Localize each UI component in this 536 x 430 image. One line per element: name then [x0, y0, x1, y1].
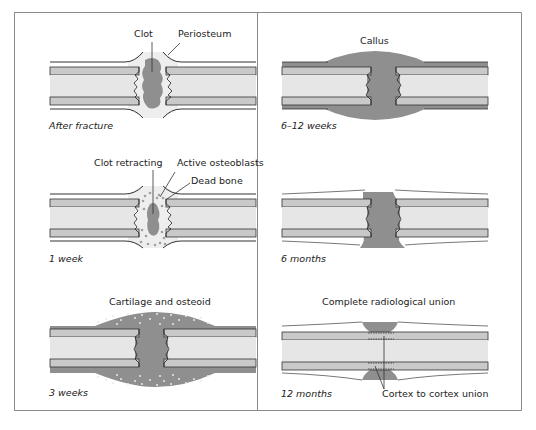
panel-12-months: Complete radiological union Cortex to co…: [281, 296, 488, 399]
caption-1-week: 1 week: [49, 253, 84, 264]
caption-6-12-weeks: 6–12 weeks: [281, 120, 337, 131]
label-callus: Callus: [360, 35, 389, 46]
label-cartilage-and-osteoid: Cartilage and osteoid: [109, 296, 211, 307]
caption-6-months: 6 months: [281, 253, 326, 264]
label-clot-retracting: Clot retracting: [94, 157, 162, 168]
label-cortex-to-cortex-union: Cortex to cortex union: [382, 388, 488, 399]
label-periosteum: Periosteum: [178, 28, 231, 39]
panel-3-weeks: Cartilage and osteoid 3 weeks: [49, 296, 256, 398]
panel-6-months: 6 months: [281, 190, 488, 264]
label-clot: Clot: [134, 28, 153, 39]
caption-3-weeks: 3 weeks: [49, 387, 88, 398]
caption-12-months: 12 months: [281, 388, 332, 399]
label-complete-radiological-union: Complete radiological union: [322, 296, 455, 307]
panel-6-12-weeks: Callus 6–12 weeks: [281, 35, 488, 131]
caption-after-fracture: After fracture: [48, 120, 113, 131]
panel-after-fracture: Clot Periosteum After fracture: [48, 28, 256, 131]
label-dead-bone: Dead bone: [191, 175, 243, 186]
fracture-healing-diagram: Clot Periosteum After fracture Callus 6–…: [0, 0, 536, 430]
label-active-osteoblasts: Active osteoblasts: [177, 157, 264, 168]
panel-1-week: Clot retracting Active osteoblasts Dead …: [49, 157, 264, 264]
